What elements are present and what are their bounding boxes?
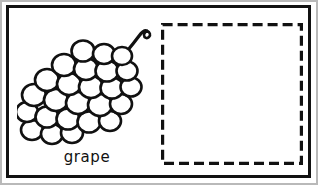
card-outer-frame: grape [6, 5, 311, 178]
dashed-answer-box[interactable] [161, 23, 303, 165]
page-bleed-left [0, 0, 2, 185]
dashed-answer-box-outline [161, 23, 303, 165]
flashcard-worksheet: grape [0, 0, 318, 185]
grape-bunch-illustration [17, 18, 157, 146]
picture-panel: grape [17, 18, 157, 178]
picture-word-label: grape [17, 148, 157, 166]
page-bleed-bottom [0, 183, 318, 185]
page-bleed-right [316, 0, 318, 185]
page-bleed-top [0, 0, 318, 2]
